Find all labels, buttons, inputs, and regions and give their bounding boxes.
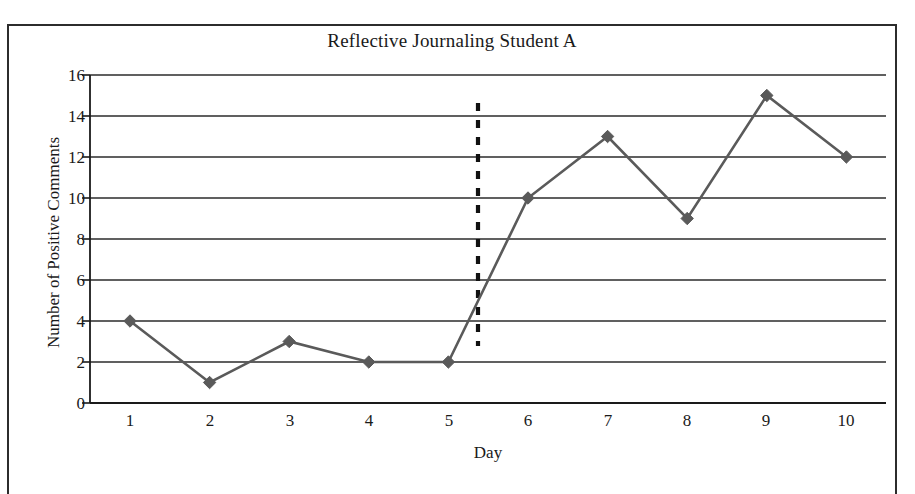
data-point-marker bbox=[363, 356, 375, 368]
gridlines bbox=[90, 75, 886, 362]
data-point-marker bbox=[442, 356, 454, 368]
y-axis-ticks bbox=[82, 75, 90, 403]
data-point-marker bbox=[283, 335, 295, 347]
